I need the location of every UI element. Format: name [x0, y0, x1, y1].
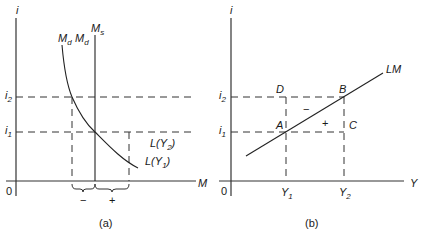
panel-a-i1-label: i1	[5, 124, 12, 139]
panel-b-y-axis-label: i	[230, 4, 233, 16]
liquidity-y1-label: L(Y1)	[145, 155, 171, 170]
is-lm-diagram: i M 0 i2 i1 Md Md Ms L(Y2) L(Y1) − + (a)…	[0, 0, 421, 235]
panel-b-caption: (b)	[305, 217, 318, 229]
money-demand-label-2: Md	[75, 32, 89, 47]
panel-b-minus-sign: −	[303, 103, 309, 115]
money-supply-label: Ms	[91, 22, 104, 37]
panel-a-plus-sign: +	[109, 194, 115, 206]
panel-a-origin-label: 0	[6, 185, 12, 197]
lm-curve-label: LM	[386, 63, 402, 75]
point-a-label: A	[275, 119, 283, 131]
money-demand-label-1: Md	[58, 32, 72, 47]
lm-curve	[246, 73, 383, 156]
panel-b-y2-label: Y2	[339, 186, 351, 201]
panel-a-minus-sign: −	[80, 194, 86, 206]
point-d-label: D	[276, 83, 284, 95]
panel-a-y-axis-label: i	[16, 4, 19, 16]
point-b-label: B	[339, 83, 346, 95]
panel-a-i2-label: i2	[5, 89, 12, 104]
plus-brace	[95, 184, 129, 192]
point-c-label: C	[349, 119, 357, 131]
panel-a-caption: (a)	[99, 217, 112, 229]
panel-b-lm-curve: i Y 0 i2 i1 Y1 Y2 LM A B C D − + (b)	[219, 4, 418, 229]
liquidity-y2-label: L(Y2)	[150, 137, 176, 152]
minus-brace	[72, 184, 95, 192]
panel-b-i1-label: i1	[219, 124, 226, 139]
panel-b-y1-label: Y1	[281, 186, 293, 201]
money-demand-curve	[62, 45, 138, 168]
panel-a-x-axis-label: M	[198, 177, 208, 189]
panel-b-i2-label: i2	[219, 89, 226, 104]
panel-b-plus-sign: +	[322, 117, 328, 129]
panel-a-money-market: i M 0 i2 i1 Md Md Ms L(Y2) L(Y1) − + (a)	[5, 4, 208, 229]
panel-b-origin-label: 0	[221, 185, 227, 197]
panel-b-x-axis-label: Y	[410, 177, 418, 189]
